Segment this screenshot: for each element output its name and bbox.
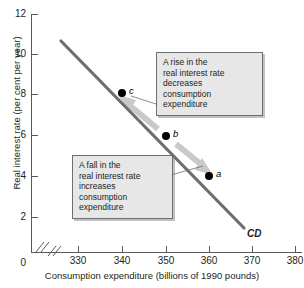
fall-callout-line-2: real interest rate <box>79 171 167 182</box>
consumption-demand-chart: 12 10 8 6 4 2 0 330 340 350 360 370 380 <box>0 0 304 288</box>
fall-callout-line-3: increases <box>79 181 167 192</box>
fall-callout-line-5: expenditure <box>79 202 167 213</box>
data-point-c[interactable] <box>118 89 126 97</box>
fall-callout: A fall in the real interest rate increas… <box>72 155 173 219</box>
data-point-label-a: a <box>216 169 221 179</box>
x-axis-break-icon <box>48 246 61 256</box>
x-axis-title: Consumption expenditure (billions of 199… <box>0 271 304 281</box>
data-point-a[interactable] <box>205 172 213 180</box>
y-axis-break-icon <box>36 242 49 252</box>
rise-callout: A rise in the real interest rate decreas… <box>156 52 263 116</box>
rise-callout-line-5: expenditure <box>163 99 257 110</box>
plot-svg <box>0 0 304 288</box>
rise-callout-line-3: decreases <box>163 78 257 89</box>
data-point-b[interactable] <box>162 132 170 140</box>
data-point-label-b: b <box>173 129 178 139</box>
fall-callout-line-1: A fall in the <box>79 160 167 171</box>
rise-callout-line-2: real interest rate <box>163 68 257 79</box>
upward-arrow-icon <box>118 95 158 129</box>
rise-callout-line-4: consumption <box>163 89 257 100</box>
downward-arrow-icon <box>176 144 213 175</box>
rise-callout-line-1: A rise in the <box>163 57 257 68</box>
cd-curve-label: CD <box>247 228 261 239</box>
fall-callout-line-4: consumption <box>79 192 167 203</box>
data-point-label-c: c <box>129 86 134 96</box>
y-axis-title: Real interest rate (per cent per year) <box>12 13 22 213</box>
